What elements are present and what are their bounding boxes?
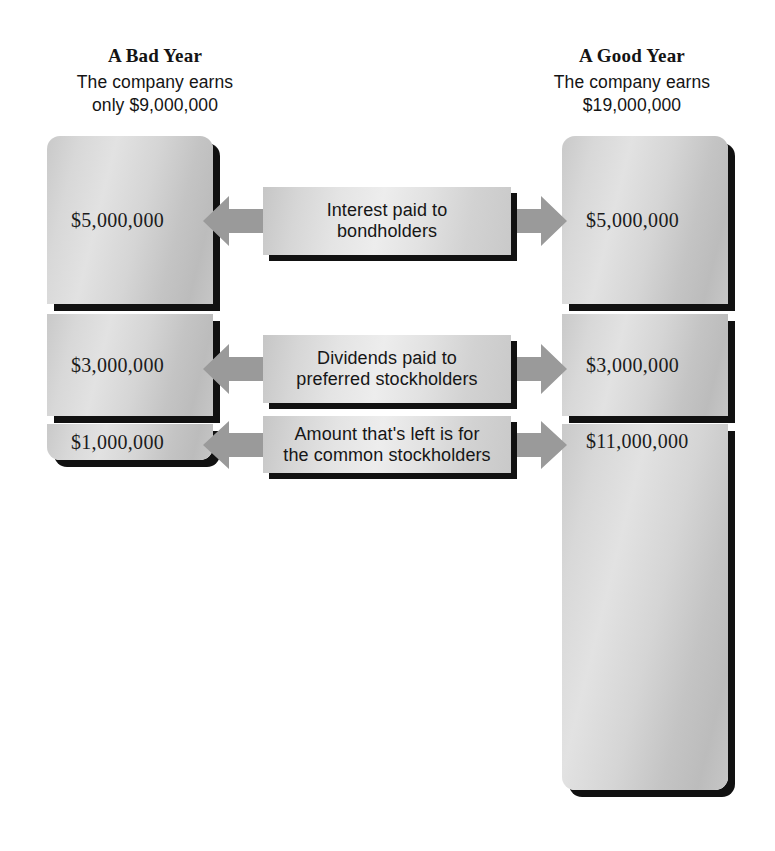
caption-text: Interest paid to bondholders [327,200,448,242]
bar-amount-label: $3,000,000 [47,354,164,377]
column-heading-bad-year: A Bad Year The company earns only $9,000… [35,44,275,116]
bar-good-year-preferred: $3,000,000 [562,314,728,416]
bar-bad-year-common: $1,000,000 [47,424,213,460]
arrow-right-icon [505,342,567,396]
bar-amount-label: $11,000,000 [562,430,689,453]
caption-line-1: Dividends paid to [317,348,457,368]
caption-plate-remainder: Amount that's left is for the common sto… [263,416,511,473]
good-year-subtitle-line2: $19,000,000 [512,94,752,116]
column-heading-good-year: A Good Year The company earns $19,000,00… [512,44,752,116]
bad-year-subtitle-line1: The company earns [35,71,275,93]
caption-line-2: the common stockholders [283,445,490,465]
good-year-subtitle-line1: The company earns [512,71,752,93]
bar-bad-year-preferred: $3,000,000 [47,314,213,416]
bar-amount-label: $5,000,000 [47,209,164,232]
good-year-title: A Good Year [512,44,752,68]
bar-bad-year-bondholders: $5,000,000 [47,136,213,304]
caption-plate-interest: Interest paid to bondholders [263,187,511,255]
bad-year-title: A Bad Year [35,44,275,68]
diagram-canvas: A Bad Year The company earns only $9,000… [0,0,775,851]
arrow-right-icon [505,419,567,471]
arrow-right-icon [505,194,567,248]
bar-amount-label: $1,000,000 [47,431,164,454]
bar-amount-label: $5,000,000 [562,209,679,232]
bad-year-subtitle-line2: only $9,000,000 [35,94,275,116]
arrow-left-icon [203,342,265,396]
bar-good-year-common: $11,000,000 [562,424,728,790]
caption-line-2: preferred stockholders [296,369,477,389]
bar-amount-label: $3,000,000 [562,354,679,377]
caption-text: Amount that's left is for the common sto… [283,424,490,466]
caption-plate-dividends: Dividends paid to preferred stockholders [263,335,511,403]
caption-text: Dividends paid to preferred stockholders [296,348,477,390]
bar-good-year-bondholders: $5,000,000 [562,136,728,304]
arrow-left-icon [203,194,265,248]
caption-line-2: bondholders [337,221,437,241]
caption-line-1: Interest paid to [327,200,448,220]
arrow-left-icon [203,419,265,471]
caption-line-1: Amount that's left is for [294,424,479,444]
